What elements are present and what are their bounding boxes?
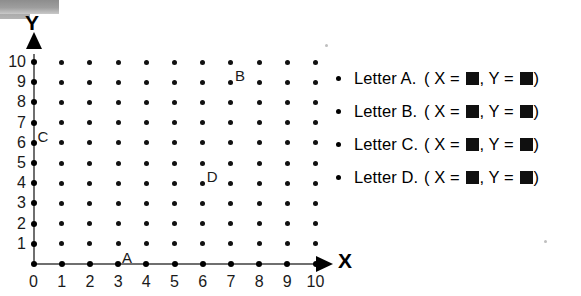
grid-dot: [31, 241, 37, 247]
grid-dot: [257, 161, 262, 166]
grid-dot: [200, 181, 205, 186]
y-value-blank-field[interactable]: [520, 105, 533, 118]
x-value-blank-field[interactable]: [466, 72, 479, 85]
grid-dot: [144, 60, 149, 65]
grid-dot: [172, 100, 177, 105]
grid-dot: [87, 221, 92, 226]
grid-dot: [200, 221, 205, 226]
grid-dot: [116, 100, 121, 105]
grid-dot: [143, 261, 149, 267]
grid-dot: [31, 180, 37, 186]
scan-speck-lower: [544, 240, 547, 243]
legend-separator: ,: [480, 135, 489, 153]
x-value-blank-field[interactable]: [466, 138, 479, 151]
x-tick-label: 9: [274, 274, 300, 290]
grid-dot: [228, 80, 233, 85]
grid-dot: [313, 181, 318, 186]
y-tick-label: 4: [2, 175, 26, 191]
legend-text: Letter A.( X = , Y = ): [354, 69, 539, 88]
grid-dot: [257, 60, 262, 65]
plotted-point-label-c: C: [38, 129, 49, 144]
grid-dot: [116, 120, 121, 125]
legend-y-variable: Y =: [489, 168, 519, 186]
y-value-blank-field[interactable]: [520, 72, 533, 85]
grid-dot: [59, 60, 64, 65]
grid-dot: [228, 161, 233, 166]
grid-dot: [87, 80, 92, 85]
grid-dot: [116, 241, 121, 246]
grid-dot: [313, 161, 318, 166]
y-tick-label: 9: [2, 74, 26, 90]
grid-dot: [87, 100, 92, 105]
grid-dot: [313, 60, 318, 65]
grid-dot: [87, 120, 92, 125]
y-axis-arrow-icon: [26, 32, 42, 49]
x-tick-label: 2: [77, 274, 103, 290]
legend-x-variable: X =: [434, 69, 464, 87]
grid-dot: [59, 161, 64, 166]
grid-dot: [144, 161, 149, 166]
grid-dot: [87, 181, 92, 186]
grid-dot: [257, 100, 262, 105]
grid-dot: [313, 201, 318, 206]
legend-item-name: Letter C.: [354, 135, 424, 154]
y-value-blank-field[interactable]: [520, 171, 533, 184]
y-tick-label: 8: [2, 94, 26, 110]
x-tick-label: 7: [218, 274, 244, 290]
legend-open-paren: (: [424, 135, 434, 153]
grid-dot: [31, 99, 37, 105]
grid-dot: [144, 181, 149, 186]
grid-dot: [285, 140, 290, 145]
y-tick-label: 10: [2, 54, 26, 70]
grid-dot: [285, 80, 290, 85]
grid-dot: [144, 241, 149, 246]
legend-open-paren: (: [424, 69, 434, 87]
grid-dot: [285, 161, 290, 166]
grid-dot: [313, 140, 318, 145]
grid-dot: [31, 79, 37, 85]
grid-dot: [59, 261, 65, 267]
grid-dot: [172, 161, 177, 166]
grid-dot: [285, 181, 290, 186]
x-tick-label: 3: [105, 274, 131, 290]
legend-row: Letter C.( X = , Y = ): [336, 128, 581, 161]
grid-dot: [172, 120, 177, 125]
x-value-blank-field[interactable]: [466, 105, 479, 118]
grid-dot: [87, 241, 92, 246]
grid-dot: [59, 201, 64, 206]
legend-item-name: Letter A.: [354, 69, 424, 88]
x-value-blank-field[interactable]: [466, 171, 479, 184]
legend-y-variable: Y =: [489, 69, 519, 87]
grid-dot: [116, 181, 121, 186]
y-value-blank-field[interactable]: [520, 138, 533, 151]
x-axis-label: X: [338, 250, 352, 271]
grid-dot: [228, 201, 233, 206]
grid-dot: [200, 140, 205, 145]
grid-dot: [59, 221, 64, 226]
bullet-icon: [336, 142, 341, 147]
legend-item-name: Letter B.: [354, 102, 424, 121]
grid-dot: [59, 241, 64, 246]
grid-dot: [144, 80, 149, 85]
legend-close-paren: ): [534, 168, 540, 186]
legend-close-paren: ): [534, 135, 540, 153]
grid-dot: [144, 100, 149, 105]
grid-dot: [116, 140, 121, 145]
grid-dot: [200, 161, 205, 166]
grid-dot: [285, 60, 290, 65]
legend-separator: ,: [480, 168, 489, 186]
grid-dot: [228, 181, 233, 186]
legend-row: Letter A.( X = , Y = ): [336, 62, 581, 95]
grid-dot: [313, 221, 318, 226]
grid-dot: [257, 221, 262, 226]
x-tick-label: 0: [21, 274, 47, 290]
coordinate-grid-plot: Y X 01234567891012345678910 ABCD: [0, 0, 340, 296]
legend-separator: ,: [480, 102, 489, 120]
grid-dot: [31, 160, 37, 166]
grid-dot: [172, 201, 177, 206]
grid-dot: [284, 261, 290, 267]
legend-open-paren: (: [424, 102, 434, 120]
x-tick-label: 5: [162, 274, 188, 290]
x-tick-label: 10: [303, 274, 329, 290]
grid-dot: [228, 60, 233, 65]
